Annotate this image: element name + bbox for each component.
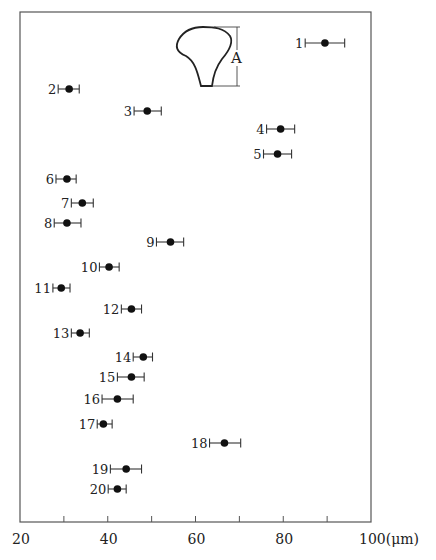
- data-points: 1234567891011121314151617181920: [34, 36, 344, 497]
- point-label: 18: [191, 436, 208, 451]
- data-point-11: 11: [34, 281, 70, 296]
- point-marker: [128, 305, 136, 313]
- x-axis-ticks: [64, 516, 327, 522]
- point-marker: [63, 219, 71, 227]
- data-point-17: 17: [79, 417, 112, 432]
- point-label: 11: [34, 281, 51, 296]
- point-marker: [114, 485, 122, 493]
- inset-shape-diagram: A: [177, 27, 242, 86]
- point-label: 2: [48, 82, 56, 97]
- x-tick-label: 80: [275, 531, 293, 547]
- data-point-1: 1: [295, 36, 345, 51]
- x-tick-label: 20: [12, 531, 30, 547]
- data-point-16: 16: [83, 392, 133, 407]
- point-label: 13: [53, 326, 70, 341]
- point-label: 7: [61, 196, 69, 211]
- point-label: 8: [44, 216, 52, 231]
- point-marker: [79, 199, 87, 207]
- point-marker: [128, 373, 136, 381]
- x-tick-label: 60: [188, 531, 206, 547]
- point-label: 1: [295, 36, 303, 51]
- point-marker: [167, 238, 175, 246]
- data-point-13: 13: [53, 326, 90, 341]
- point-marker: [114, 395, 122, 403]
- point-label: 3: [124, 104, 132, 119]
- data-point-12: 12: [103, 302, 142, 317]
- point-marker: [277, 125, 285, 133]
- point-label: 15: [99, 370, 116, 385]
- point-marker: [105, 263, 113, 271]
- data-point-19: 19: [92, 462, 142, 477]
- data-point-15: 15: [99, 370, 144, 385]
- point-marker: [143, 107, 151, 115]
- x-tick-label: 100(μm): [359, 531, 419, 547]
- point-label: 17: [79, 417, 96, 432]
- point-marker: [76, 329, 84, 337]
- data-point-9: 9: [146, 235, 183, 250]
- point-label: 9: [146, 235, 154, 250]
- point-label: 20: [90, 482, 107, 497]
- x-tick-label: 40: [100, 531, 118, 547]
- point-label: 5: [253, 147, 261, 162]
- point-label: 16: [83, 392, 100, 407]
- point-marker: [100, 420, 108, 428]
- point-label: 6: [46, 172, 54, 187]
- data-point-18: 18: [191, 436, 241, 451]
- point-marker: [122, 465, 130, 473]
- dimension-label-a: A: [230, 49, 242, 67]
- data-point-3: 3: [124, 104, 161, 119]
- point-marker: [221, 439, 229, 447]
- data-point-8: 8: [44, 216, 81, 231]
- data-point-6: 6: [46, 172, 76, 187]
- point-marker: [139, 353, 147, 361]
- data-point-10: 10: [81, 260, 119, 275]
- point-marker: [274, 150, 282, 158]
- point-marker: [63, 175, 71, 183]
- data-point-5: 5: [253, 147, 291, 162]
- point-label: 10: [81, 260, 98, 275]
- tooth-outline-icon: [177, 27, 231, 86]
- point-marker: [321, 39, 329, 47]
- data-point-20: 20: [90, 482, 127, 497]
- data-point-4: 4: [256, 122, 294, 137]
- x-axis-tick-labels: 20406080100(μm): [12, 531, 419, 547]
- data-point-2: 2: [48, 82, 79, 97]
- data-point-14: 14: [115, 350, 153, 365]
- data-point-7: 7: [61, 196, 93, 211]
- point-label: 14: [115, 350, 132, 365]
- point-marker: [65, 85, 73, 93]
- chart: 20406080100(μm) A 1234567891011121314151…: [0, 0, 436, 560]
- point-label: 19: [92, 462, 109, 477]
- point-marker: [57, 284, 65, 292]
- point-label: 12: [103, 302, 120, 317]
- point-label: 4: [256, 122, 264, 137]
